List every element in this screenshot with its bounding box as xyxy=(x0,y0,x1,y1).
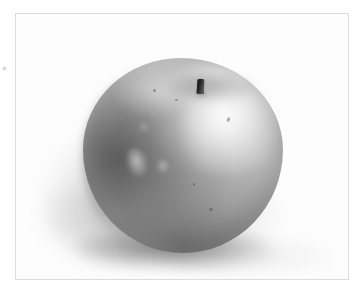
apple-stem xyxy=(197,79,205,94)
photo-frame xyxy=(15,13,349,280)
edge-speck-artifact xyxy=(2,66,7,71)
apple-freckle xyxy=(209,208,213,211)
page-root xyxy=(0,0,361,294)
photograph-canvas xyxy=(16,14,348,279)
apple-freckle xyxy=(193,183,195,186)
apple-stem-well xyxy=(168,72,254,102)
